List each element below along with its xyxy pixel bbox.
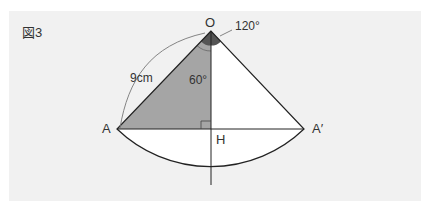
point-a-prime-label: A′ — [312, 121, 324, 136]
angle-120-label: 120° — [235, 19, 260, 33]
angle-60-label: 60° — [189, 73, 207, 87]
angle-120-pointer — [220, 30, 232, 36]
sector-diagram: O 120° 9cm 60° A A′ H — [0, 0, 430, 211]
point-h-label: H — [216, 132, 225, 147]
point-o-label: O — [205, 15, 215, 30]
point-a-label: A — [102, 121, 111, 136]
length-9cm-label: 9cm — [130, 71, 153, 85]
